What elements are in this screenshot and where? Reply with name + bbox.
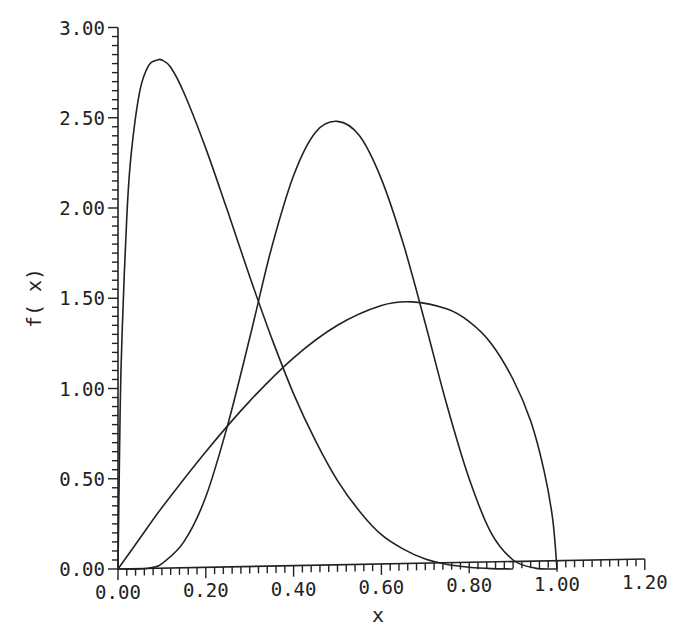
x-tick-label: 0.20: [183, 579, 229, 601]
y-tick-label: 0.50: [59, 468, 105, 490]
y-axis: 0.000.501.001.502.002.503.00: [59, 17, 118, 581]
y-tick-label: 1.50: [59, 287, 105, 309]
x-tick-label: 1.00: [534, 573, 580, 595]
x-tick-label: 0.80: [446, 574, 492, 596]
x-tick-label: 0.00: [95, 581, 141, 603]
y-tick-label: 1.00: [59, 378, 105, 400]
chart: 0.000.501.001.502.002.503.00 0.000.200.4…: [0, 0, 686, 641]
y-tick-label: 0.00: [59, 558, 105, 580]
series-curve-2: [118, 121, 557, 569]
x-axis-title: x: [372, 603, 384, 627]
x-tick-label: 1.20: [622, 571, 668, 593]
plot-area: [118, 59, 557, 569]
y-tick-label: 3.00: [59, 17, 105, 39]
y-tick-label: 2.00: [59, 197, 105, 219]
x-tick-label: 0.40: [271, 578, 317, 600]
x-axis: 0.000.200.400.600.801.001.20: [95, 559, 668, 603]
series-curve-1: [118, 59, 513, 569]
y-axis-title: f( x): [22, 268, 46, 328]
series-curve-3: [118, 302, 557, 569]
x-tick-label: 0.60: [359, 576, 405, 598]
y-tick-label: 2.50: [59, 107, 105, 129]
